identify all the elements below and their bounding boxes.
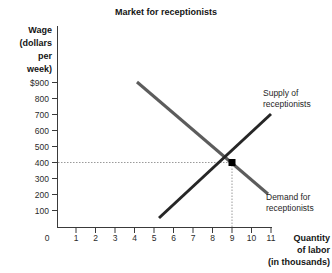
- y-axis-label-line-1: Wage: [28, 25, 52, 35]
- y-tick-label-200: 200: [35, 190, 49, 200]
- supply-annotation-line-2: receptionists: [263, 99, 311, 109]
- x-tick-label-5: 5: [152, 233, 157, 243]
- x-tick-label-9: 9: [230, 233, 235, 243]
- x-axis-label-line-1: Quantity: [293, 233, 330, 243]
- y-tick-label-800: 800: [35, 94, 49, 104]
- x-tick-label-7: 7: [191, 233, 196, 243]
- y-tick-label-100: 100: [35, 206, 49, 216]
- y-tick-label-900: $900: [30, 78, 49, 88]
- origin-label: 0: [45, 233, 50, 243]
- x-tick-label-8: 8: [210, 233, 215, 243]
- x-tick-label-11: 11: [267, 233, 276, 243]
- x-tick-label-4: 4: [132, 233, 137, 243]
- demand-annotation-line-1: Demand for: [266, 192, 311, 202]
- y-axis-label-line-4: week): [26, 64, 52, 74]
- y-tick-label-300: 300: [35, 174, 49, 184]
- market-for-receptionists-chart: Market for receptionists Wage (dollars p…: [0, 0, 332, 273]
- y-tick-label-600: 600: [35, 126, 49, 136]
- chart-container: Market for receptionists Wage (dollars p…: [0, 0, 332, 273]
- demand-annotation: Demand for receptionists: [266, 192, 314, 213]
- x-axis-label-line-3: (in thousands): [268, 257, 330, 267]
- x-tick-label-3: 3: [113, 233, 118, 243]
- demand-annotation-line-2: receptionists: [266, 203, 314, 213]
- y-tick-label-700: 700: [35, 110, 49, 120]
- equilibrium-point-marker: [229, 159, 236, 166]
- y-tick-label-400: 400: [35, 158, 49, 168]
- chart-title: Market for receptionists: [115, 7, 217, 17]
- y-tick-label-500: 500: [35, 142, 49, 152]
- x-axis-label-line-2: of labor: [297, 245, 330, 255]
- x-tick-label-10: 10: [247, 233, 257, 243]
- x-tick-label-6: 6: [171, 233, 176, 243]
- y-axis-label-line-3: per: [38, 51, 53, 61]
- x-tick-label-1: 1: [74, 233, 79, 243]
- x-tick-label-2: 2: [93, 233, 98, 243]
- supply-annotation-line-1: Supply of: [263, 88, 299, 98]
- y-axis-label-line-2: (dollars: [19, 38, 52, 48]
